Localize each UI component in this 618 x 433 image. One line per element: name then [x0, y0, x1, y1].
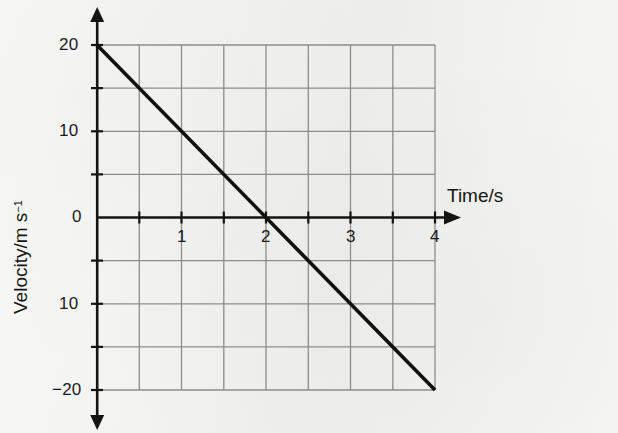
- velocity-time-graph-canvas: [0, 0, 618, 433]
- y-tick-label-10: 10: [59, 122, 78, 139]
- chart-figure: 20 10 0 10 −20 1 2 3 4 Time/s Velocity/m…: [0, 0, 618, 433]
- x-axis-title: Time/s: [447, 186, 503, 205]
- x-tick-label-1: 1: [177, 228, 187, 245]
- y-axis-arrowhead-up: [90, 7, 104, 22]
- y-axis-title-text: Velocity/m s: [10, 213, 31, 314]
- y-axis-arrowhead-down: [90, 415, 104, 430]
- x-axis: [97, 211, 461, 225]
- y-axis-title: Velocity/m s−1: [11, 200, 30, 314]
- x-tick-label-3: 3: [346, 228, 356, 245]
- x-tick-label-2: 2: [261, 228, 271, 245]
- y-axis-title-exponent: −1: [12, 200, 24, 213]
- y-tick-label-0: 0: [72, 208, 82, 225]
- y-tick-label-minus-20: −20: [52, 381, 81, 398]
- x-axis-arrowhead: [444, 211, 461, 225]
- y-tick-label-minus-10: 10: [59, 295, 78, 312]
- x-tick-label-4: 4: [430, 228, 440, 245]
- y-tick-label-20: 20: [59, 36, 78, 53]
